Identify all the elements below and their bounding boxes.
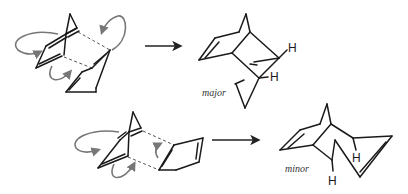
dienophile-bottom (159, 138, 203, 170)
h-atom: H (352, 151, 361, 165)
major-label: major (202, 87, 226, 98)
diene-top (36, 14, 79, 68)
h-atom: H (288, 41, 297, 55)
dienophile-top (66, 50, 110, 92)
top-reactants (16, 14, 126, 92)
minor-label: minor (285, 163, 309, 174)
curly-arrow-right (102, 16, 126, 50)
curly-arrow-bottom (50, 66, 70, 80)
reaction-scheme: H H major (0, 0, 408, 194)
curly-arrow-bottom (112, 164, 134, 178)
h-atom: H (328, 174, 337, 188)
product-major: H H major (199, 14, 297, 108)
bottom-reactants (75, 112, 203, 178)
curly-arrow-right (156, 144, 160, 158)
product-minor: H H minor (280, 104, 392, 188)
h-atom: H (270, 70, 279, 84)
